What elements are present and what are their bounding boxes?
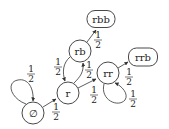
state-label: rr <box>103 68 113 79</box>
svg-text:2: 2 <box>130 99 136 109</box>
edge-rb-to-r: 12 <box>54 57 70 81</box>
edge-probability-label: 12 <box>85 60 93 80</box>
arrow-icon <box>103 83 126 103</box>
arrow-icon <box>74 63 83 83</box>
svg-text:2: 2 <box>28 74 34 84</box>
svg-text:1: 1 <box>126 67 132 77</box>
state-label: ∅ <box>29 108 38 119</box>
state-node-rr: rr <box>97 62 119 84</box>
svg-text:1: 1 <box>55 57 61 67</box>
state-node-rrb: rrb <box>129 48 158 66</box>
svg-text:2: 2 <box>95 40 101 50</box>
svg-text:1: 1 <box>91 85 97 95</box>
state-label: rbb <box>92 14 110 25</box>
edge-empty-to-empty: 12 <box>11 64 35 104</box>
state-diagram: 1212121212121212 ∅rrbrrrbbrrb <box>0 0 169 129</box>
svg-text:2: 2 <box>53 112 59 122</box>
state-label: rrb <box>135 52 151 63</box>
svg-text:1: 1 <box>86 60 92 70</box>
edge-probability-label: 12 <box>90 85 98 105</box>
svg-text:1: 1 <box>53 102 59 112</box>
state-node-rb: rb <box>69 40 91 62</box>
state-node-empty: ∅ <box>22 102 44 124</box>
state-node-rbb: rbb <box>87 11 115 28</box>
edge-rr-to-rr: 12 <box>103 83 137 109</box>
edge-r-to-rr: 12 <box>78 79 98 105</box>
edge-probability-label: 12 <box>52 102 60 122</box>
edge-rr-to-rrb: 12 <box>118 62 133 87</box>
svg-text:1: 1 <box>28 64 34 74</box>
edge-empty-to-r: 12 <box>43 99 60 122</box>
state-label: rb <box>74 46 85 57</box>
svg-text:2: 2 <box>86 70 92 80</box>
svg-text:1: 1 <box>95 30 101 40</box>
edge-probability-label: 12 <box>54 57 62 77</box>
edge-probability-label: 12 <box>129 89 137 109</box>
svg-text:1: 1 <box>130 89 136 99</box>
svg-text:2: 2 <box>55 67 61 77</box>
svg-text:2: 2 <box>91 95 97 105</box>
state-node-r: r <box>57 82 79 104</box>
edge-probability-label: 12 <box>94 30 102 50</box>
state-label: r <box>66 88 71 99</box>
edge-probability-label: 12 <box>125 67 133 87</box>
edge-r-to-rb: 12 <box>74 60 93 83</box>
edge-probability-label: 12 <box>27 64 35 84</box>
svg-text:2: 2 <box>126 77 132 87</box>
arrow-icon <box>63 57 70 81</box>
